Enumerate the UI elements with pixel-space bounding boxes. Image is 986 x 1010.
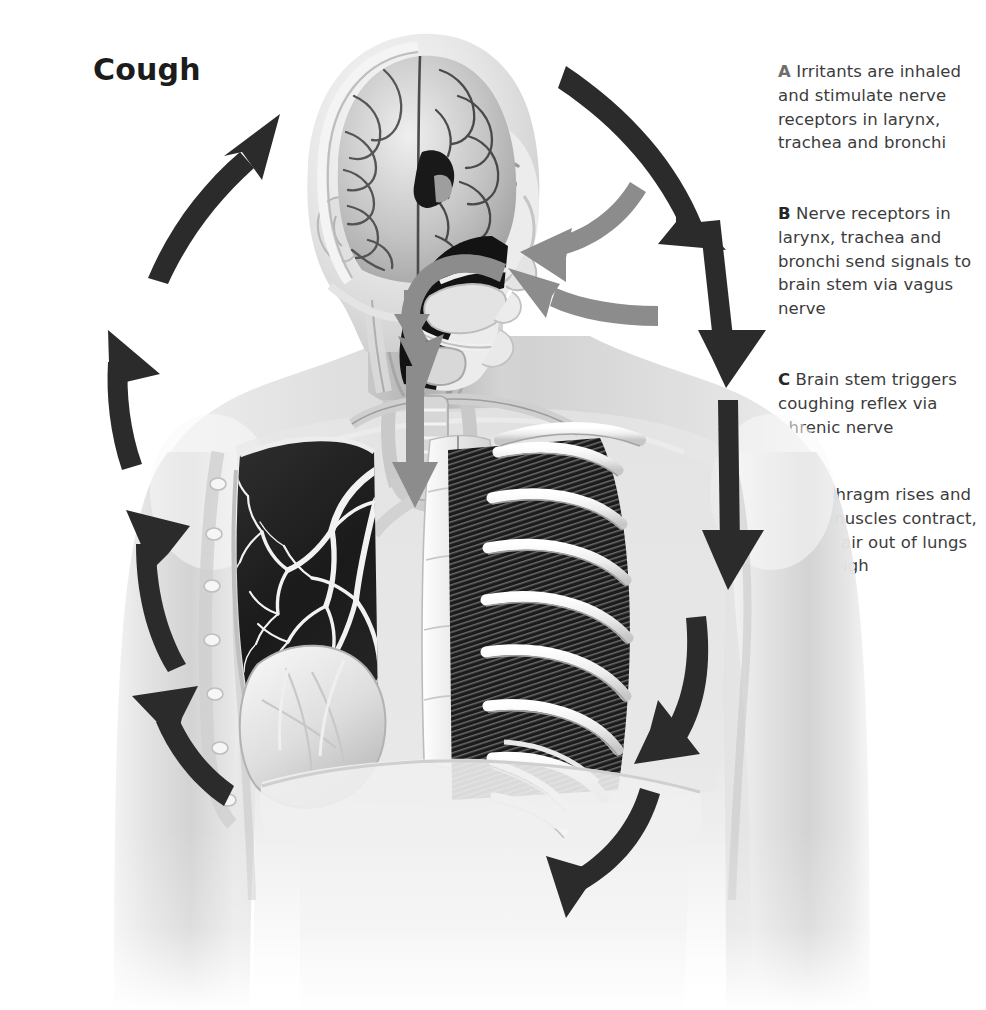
arrow-gray-lower-to-face <box>508 268 658 326</box>
figure-canvas: Cough A Irritants are inhaled and stimul… <box>0 0 986 1010</box>
arrow-gray-upper-to-face <box>520 182 646 282</box>
signal-arrows <box>0 0 986 1010</box>
arrow-gray-trachea-long <box>392 366 438 508</box>
